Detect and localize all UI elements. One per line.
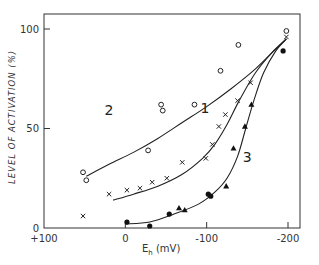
data-point-dot [124,219,129,224]
data-point-cross [204,156,208,160]
data-point-dot [167,211,172,216]
fit-curve-2 [86,39,286,176]
fit-curve-1 [113,39,286,200]
data-point-cross [180,160,184,164]
x-tick-label: -200 [277,233,300,244]
data-point-cross [223,112,227,116]
data-point-circle [160,108,165,113]
y-axis-label: LEVEL OF ACTIVATION (%) [7,50,17,184]
data-point-cross [210,142,214,146]
data-point-cross [150,180,154,184]
data-point-cross [217,124,221,128]
data-point-triangle [231,145,237,150]
data-point-circle [81,170,86,175]
data-point-dot [208,194,213,199]
curve-label-3: 3 [243,149,252,165]
x-tick-label: 0 [122,233,128,244]
data-point-cross [125,188,129,192]
data-point-circle [146,148,151,153]
curve-label-1: 1 [201,100,210,116]
data-point-triangle [176,205,182,210]
y-tick-label: 0 [33,223,39,234]
plot-frame [44,14,300,228]
data-point-circle [192,102,197,107]
x-axis-label-unit: (mV) [153,243,181,254]
plot-border [44,14,300,228]
data-point-cross [138,186,142,190]
data-point-cross [284,35,288,39]
data-point-circle [218,68,223,73]
x-tick-label: -100 [195,233,218,244]
data-point-cross [81,214,85,218]
x-tick-label: +100 [30,233,57,244]
y-axis-ticks: 050100 [20,24,50,234]
fit-curve-3 [125,39,286,224]
data-point-dot [281,48,286,53]
x-axis-label: Eh (mV) [142,243,180,257]
y-tick-label: 50 [26,123,39,134]
curve-label-2: 2 [105,102,114,118]
fit-curves [86,39,286,224]
data-point-circle [236,43,241,48]
data-point-circle [159,102,164,107]
x-axis-ticks: +1000-100-200 [30,222,299,244]
data-point-cross [165,176,169,180]
data-point-triangle [223,183,229,188]
data-points [81,29,289,229]
data-point-dot [147,223,152,228]
y-tick-label: 100 [20,24,39,35]
chart: +1000-100-200 050100 213 LEVEL OF ACTIVA… [0,0,319,265]
data-point-circle [284,29,289,34]
data-point-circle [84,178,89,183]
data-point-cross [107,192,111,196]
